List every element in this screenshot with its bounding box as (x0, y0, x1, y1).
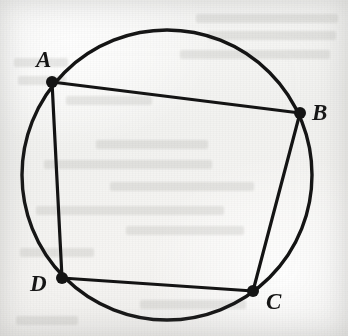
quadrilateral-edges (52, 82, 300, 291)
figure-canvas (0, 0, 348, 336)
vertex-dot-d (56, 272, 68, 284)
vertex-label-c: C (266, 290, 281, 313)
quad-edge-da (52, 82, 62, 278)
quad-edge-bc (253, 113, 300, 291)
vertex-label-d: D (30, 272, 47, 295)
vertex-dot-a (46, 76, 58, 88)
vertex-dot-c (247, 285, 259, 297)
vertex-label-b: B (312, 101, 327, 124)
quad-edge-cd (62, 278, 253, 291)
geometry-figure: ABCD (0, 0, 348, 336)
vertex-dot-b (294, 107, 306, 119)
quad-edge-ab (52, 82, 300, 113)
vertex-label-a: A (36, 48, 51, 71)
